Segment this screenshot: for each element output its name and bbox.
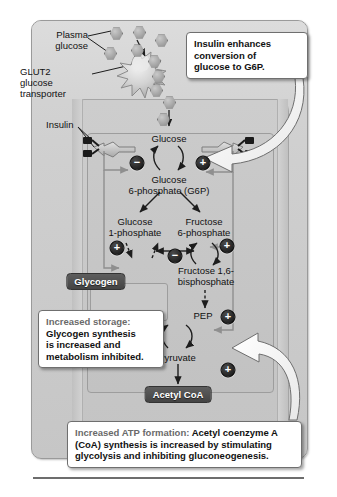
insulin-label: Insulin <box>46 119 73 130</box>
regulator-pep-stimulate: + <box>221 310 236 325</box>
node-g6p: Glucose 6-phosphate (G6P) <box>129 174 210 196</box>
plasma-glucose-label: Plasma glucose <box>16 29 88 51</box>
figure-stage: Plasma glucose GLUT2 glucose transporter… <box>0 0 337 497</box>
regulator-f6p-stimulate: + <box>220 239 235 254</box>
node-glucose: Glucose <box>152 133 187 144</box>
regulator-g1p-stimulate: + <box>110 241 125 256</box>
glut2-label: GLUT2 glucose transporter <box>20 66 66 99</box>
bottom-divider <box>33 477 304 479</box>
regulator-g6p-inhibit: − <box>130 156 145 171</box>
node-g1p: Glucose 1-phosphate <box>109 216 162 238</box>
node-acetyl-coa: Acetyl CoA <box>145 386 212 403</box>
insulin-receptor-left-icon <box>83 137 135 157</box>
regulator-acetyl-stimulate: + <box>221 363 236 378</box>
white-arrow-top <box>204 78 304 172</box>
white-arrow-bottom <box>232 333 300 420</box>
node-glycogen: Glycogen <box>66 273 125 290</box>
callout-atp-rest1: Acetyl coenzyme A <box>189 427 278 438</box>
callout-insulin-g6p: Insulin enhances conversion of glucose t… <box>186 32 308 79</box>
node-f6p: Fructose 6-phosphate <box>178 216 231 238</box>
glycogen-dashed-arrows <box>126 243 158 258</box>
node-pep: PEP <box>193 310 212 321</box>
callout-increased-storage: Increased storage: Glycogen synthesis is… <box>38 310 164 368</box>
callout-increased-atp: Increased ATP formation: Acetyl coenzyme… <box>67 421 302 468</box>
node-fbp: Fructose 1,6- bisphosphate <box>178 265 235 287</box>
regulator-g6p-stimulate: + <box>196 156 211 171</box>
regulator-glycogen-inhibit: − <box>168 249 183 264</box>
callout-atp-lead: Increased ATP formation: <box>75 427 189 438</box>
